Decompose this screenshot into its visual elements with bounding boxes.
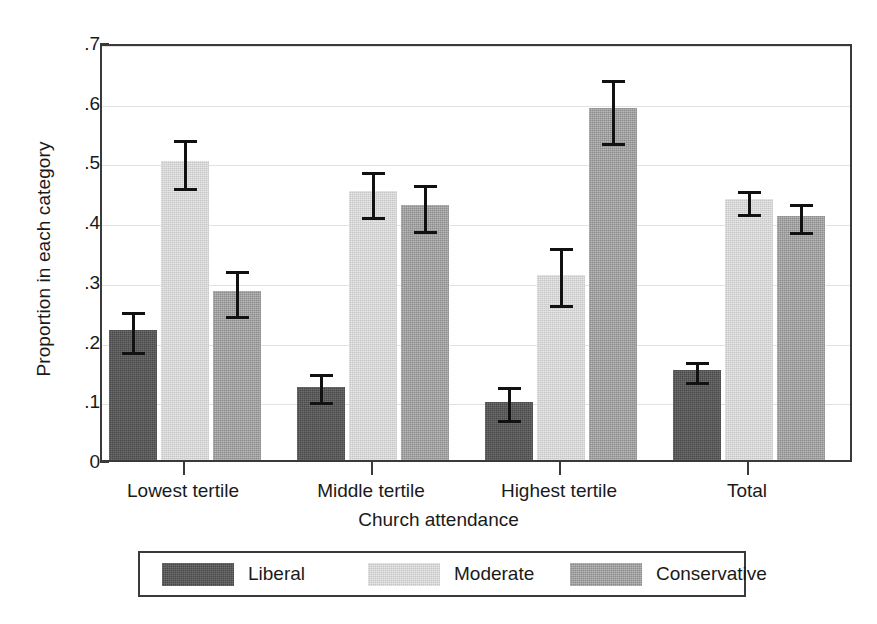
error-bar-cap-top bbox=[122, 312, 145, 315]
error-bar-cap-bottom bbox=[310, 402, 333, 405]
bar-middle-tertile-moderate bbox=[349, 191, 397, 460]
y-tick-label: .5 bbox=[60, 152, 100, 174]
error-bar-cap-top bbox=[498, 387, 521, 390]
y-axis-ticks: 0.1.2.3.4.5.6.7 bbox=[44, 44, 100, 462]
bar-total-moderate bbox=[725, 199, 773, 460]
legend-label-conservative: Conservative bbox=[656, 563, 767, 585]
x-tick-label-middle-tertile: Middle tertile bbox=[261, 480, 481, 502]
bar-highest-tertile-conservative bbox=[589, 108, 637, 460]
error-bar-cap-top bbox=[174, 140, 197, 143]
bar-chart-figure: Proportion in each category 0.1.2.3.4.5.… bbox=[0, 0, 877, 624]
legend-swatch-moderate bbox=[368, 563, 440, 586]
chart-legend: LiberalModerateConservative bbox=[138, 551, 746, 597]
error-bar-cap-top bbox=[602, 80, 625, 83]
x-tick-mark bbox=[747, 462, 749, 475]
error-bar bbox=[132, 312, 135, 355]
error-bar bbox=[696, 362, 699, 384]
y-tick-label: .6 bbox=[60, 93, 100, 115]
legend-entry-moderate: Moderate bbox=[368, 553, 534, 595]
x-tick-mark bbox=[559, 462, 561, 475]
error-bar-cap-top bbox=[738, 191, 761, 194]
legend-entry-conservative: Conservative bbox=[570, 553, 767, 595]
y-tick-label: .4 bbox=[60, 212, 100, 234]
y-tick-label: .3 bbox=[60, 272, 100, 294]
x-axis-ticks bbox=[100, 462, 852, 476]
legend-entry-liberal: Liberal bbox=[162, 553, 305, 595]
y-tick-label: .7 bbox=[60, 33, 100, 55]
error-bar bbox=[560, 248, 563, 308]
error-bar-cap-top bbox=[226, 271, 249, 274]
error-bar bbox=[424, 185, 427, 235]
error-bar-cap-bottom bbox=[362, 217, 385, 220]
error-bar bbox=[320, 374, 323, 405]
error-bar-cap-bottom bbox=[174, 188, 197, 191]
error-bar bbox=[612, 80, 615, 146]
error-bar bbox=[236, 271, 239, 319]
x-tick-label-total: Total bbox=[637, 480, 857, 502]
x-tick-mark bbox=[371, 462, 373, 475]
error-bar-cap-bottom bbox=[122, 352, 145, 355]
error-bar-cap-bottom bbox=[790, 232, 813, 235]
error-bar-cap-top bbox=[550, 248, 573, 251]
error-bar-cap-bottom bbox=[686, 382, 709, 385]
x-axis-title: Church attendance bbox=[0, 509, 877, 531]
error-bar-cap-top bbox=[414, 185, 437, 188]
error-bar bbox=[372, 172, 375, 220]
x-tick-label-highest-tertile: Highest tertile bbox=[449, 480, 669, 502]
error-bar-cap-bottom bbox=[602, 143, 625, 146]
y-tick-label: 0 bbox=[60, 451, 100, 473]
error-bar-cap-bottom bbox=[550, 305, 573, 308]
gridline bbox=[102, 46, 850, 47]
error-bar bbox=[184, 140, 187, 191]
error-bar bbox=[508, 387, 511, 423]
legend-label-moderate: Moderate bbox=[454, 563, 534, 585]
legend-swatch-liberal bbox=[162, 563, 234, 586]
gridline bbox=[102, 165, 850, 166]
error-bar-cap-top bbox=[362, 172, 385, 175]
error-bar-cap-bottom bbox=[226, 316, 249, 319]
error-bar bbox=[800, 204, 803, 235]
plot-area bbox=[100, 44, 852, 462]
x-tick-label-lowest-tertile: Lowest tertile bbox=[73, 480, 293, 502]
legend-label-liberal: Liberal bbox=[248, 563, 305, 585]
error-bar bbox=[748, 191, 751, 218]
error-bar-cap-top bbox=[686, 362, 709, 365]
error-bar-cap-bottom bbox=[738, 214, 761, 217]
bar-total-conservative bbox=[777, 216, 825, 460]
x-tick-mark bbox=[183, 462, 185, 475]
bar-middle-tertile-conservative bbox=[401, 205, 449, 460]
error-bar-cap-bottom bbox=[414, 231, 437, 234]
error-bar-cap-top bbox=[790, 204, 813, 207]
error-bar-cap-bottom bbox=[498, 420, 521, 423]
gridline bbox=[102, 106, 850, 107]
legend-swatch-conservative bbox=[570, 563, 642, 586]
bar-lowest-tertile-moderate bbox=[161, 161, 209, 460]
y-tick-label: .1 bbox=[60, 391, 100, 413]
y-tick-label: .2 bbox=[60, 332, 100, 354]
error-bar-cap-top bbox=[310, 374, 333, 377]
